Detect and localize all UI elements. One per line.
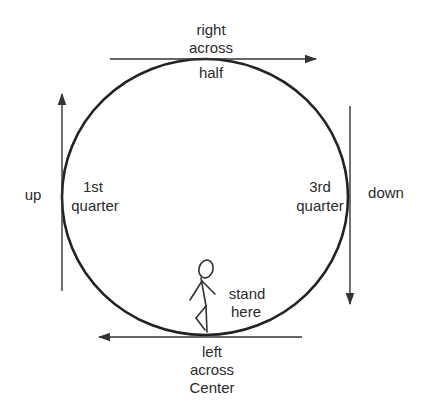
down-label: down: [368, 184, 404, 201]
up-label: up: [25, 186, 42, 203]
stick-figure-icon: [190, 258, 215, 332]
first-quarter-line1: 1st: [83, 178, 104, 195]
top-label-line2: across: [189, 39, 233, 56]
top-label-line1: right: [196, 21, 226, 38]
lap-direction-diagram: right across half up 1st quarter 3rd qua…: [0, 0, 428, 413]
third-quarter-line2: quarter: [296, 197, 344, 214]
bottom-label-line1: left: [202, 343, 223, 360]
stand-here-line2: here: [231, 303, 261, 320]
third-quarter-line1: 3rd: [309, 178, 331, 195]
diagram-canvas: right across half up 1st quarter 3rd qua…: [0, 0, 428, 413]
first-quarter-line2: quarter: [71, 197, 119, 214]
stand-here-line1: stand: [229, 285, 266, 302]
bottom-label-line3: Center: [189, 379, 234, 396]
bottom-label-line2: across: [190, 361, 234, 378]
top-below-label: half: [199, 64, 224, 81]
